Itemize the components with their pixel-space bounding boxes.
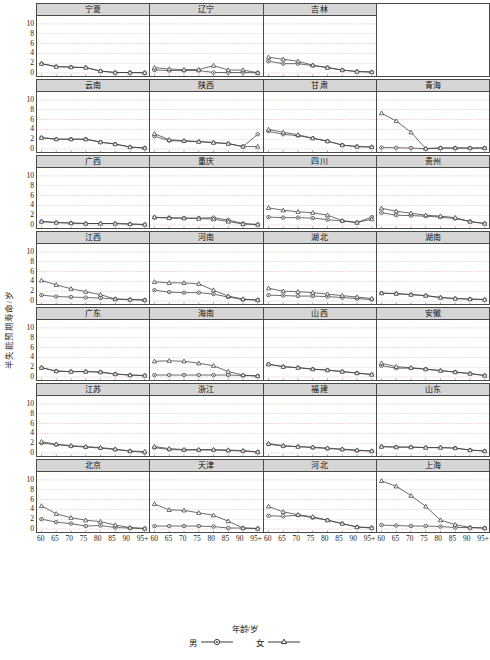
panel-河南: 河南 bbox=[150, 232, 263, 304]
panel-上海: 上海 bbox=[377, 460, 489, 532]
y-axis-tick-column: 0246810 bbox=[18, 79, 36, 153]
x-axis-tick-group: 6065707580859095+ bbox=[150, 533, 264, 545]
panel-title: 重庆 bbox=[150, 156, 262, 168]
y-axis-tick-label: 0 bbox=[30, 297, 34, 305]
panel-title: 广西 bbox=[37, 156, 149, 168]
panel-湖南: 湖南 bbox=[377, 232, 489, 304]
panel-重庆: 重庆 bbox=[150, 156, 263, 228]
y-axis-tick-column: 0246810 bbox=[18, 231, 36, 305]
panel-plot-area bbox=[264, 396, 376, 456]
x-axis-tick-label: 95+ bbox=[364, 533, 376, 545]
y-axis-title: 半失能预期寿命/岁 bbox=[0, 0, 17, 660]
y-axis-tick-label: 0 bbox=[30, 221, 34, 229]
x-axis-tick-label: 60 bbox=[151, 533, 158, 545]
y-axis-tick-label: 2 bbox=[30, 287, 34, 295]
x-axis-tick-label: 80 bbox=[94, 533, 101, 545]
panel-title: 安徽 bbox=[377, 308, 489, 320]
y-axis-tick-label: 2 bbox=[30, 135, 34, 143]
panel-湖北: 湖北 bbox=[264, 232, 377, 304]
panel-row: 0246810宁夏辽宁吉林 bbox=[18, 3, 490, 77]
x-axis-tick-label: 65 bbox=[51, 533, 58, 545]
y-axis-tick-label: 8 bbox=[30, 486, 34, 494]
y-axis-tick-label: 10 bbox=[26, 400, 34, 408]
panel-title: 上海 bbox=[377, 460, 489, 472]
panel-title: 辽宁 bbox=[150, 4, 262, 16]
panel-陕西: 陕西 bbox=[150, 80, 263, 152]
panel-江西: 江西 bbox=[37, 232, 150, 304]
panel-山西: 山西 bbox=[264, 308, 377, 380]
legend: 男 女 bbox=[0, 636, 490, 648]
panel-plot-area bbox=[150, 472, 262, 532]
x-axis-title: 年龄/岁 bbox=[0, 622, 490, 634]
panel-group: 北京天津河北上海 bbox=[36, 459, 490, 533]
y-axis-tick-label: 10 bbox=[26, 248, 34, 256]
panel-row: 0246810北京天津河北上海 bbox=[18, 459, 490, 533]
panel-title: 陕西 bbox=[150, 80, 262, 92]
y-axis-tick-label: 8 bbox=[30, 30, 34, 38]
y-axis-tick-column: 0246810 bbox=[18, 459, 36, 533]
x-axis-tick-label: 95+ bbox=[137, 533, 149, 545]
panel-title: 江西 bbox=[37, 232, 149, 244]
panel-plot-area bbox=[37, 244, 149, 304]
x-axis-tick-group: 6065707580859095+ bbox=[36, 533, 150, 545]
panel-plot-area bbox=[377, 244, 489, 304]
legend-label-female: 女 bbox=[256, 636, 264, 648]
x-axis-tick-label: 70 bbox=[293, 533, 300, 545]
panel-rows-container: 0246810宁夏辽宁吉林0246810云南陕西甘肃青海0246810广西重庆四… bbox=[18, 3, 490, 535]
panel-plot-area bbox=[37, 320, 149, 380]
panel-title: 海南 bbox=[150, 308, 262, 320]
panel-plot-area bbox=[37, 472, 149, 532]
legend-label-male: 男 bbox=[189, 636, 197, 648]
panel-row: 0246810江西河南湖北湖南 bbox=[18, 231, 490, 305]
y-axis-tick-label: 10 bbox=[26, 172, 34, 180]
y-axis-tick-label: 0 bbox=[30, 145, 34, 153]
y-axis-tick-column: 0246810 bbox=[18, 3, 36, 77]
y-axis-tick-label: 4 bbox=[30, 354, 34, 362]
panel-title: 江苏 bbox=[37, 384, 149, 396]
x-axis-tick-label: 85 bbox=[449, 533, 456, 545]
y-axis-tick-label: 6 bbox=[30, 192, 34, 200]
panel-group: 云南陕西甘肃青海 bbox=[36, 79, 490, 153]
y-axis-tick-label: 10 bbox=[26, 324, 34, 332]
panel-title: 宁夏 bbox=[37, 4, 149, 16]
panel-title: 四川 bbox=[264, 156, 376, 168]
x-axis-tick-label: 65 bbox=[392, 533, 399, 545]
panel-plot-area bbox=[377, 168, 489, 228]
legend-marker-circle-icon bbox=[200, 637, 234, 647]
x-axis-tick-label: 90 bbox=[463, 533, 470, 545]
y-axis-tick-column: 0246810 bbox=[18, 383, 36, 457]
x-axis-tick-label: 70 bbox=[179, 533, 186, 545]
y-axis-tick-label: 6 bbox=[30, 116, 34, 124]
panel-plot-area bbox=[377, 320, 489, 380]
panel-plot-area bbox=[264, 92, 376, 152]
panel-title: 湖南 bbox=[377, 232, 489, 244]
y-axis-tick-label: 8 bbox=[30, 334, 34, 342]
panel-title: 广东 bbox=[37, 308, 149, 320]
panel-宁夏: 宁夏 bbox=[37, 4, 150, 76]
panel-江苏: 江苏 bbox=[37, 384, 150, 456]
y-axis-tick-label: 10 bbox=[26, 20, 34, 28]
panel-plot-area bbox=[150, 396, 262, 456]
legend-item-male: 男 bbox=[189, 636, 234, 648]
panel-row: 0246810广西重庆四川贵州 bbox=[18, 155, 490, 229]
panel-河北: 河北 bbox=[264, 460, 377, 532]
x-axis-tick-label: 80 bbox=[435, 533, 442, 545]
y-axis-tick-label: 2 bbox=[30, 515, 34, 523]
x-axis-tick-label: 70 bbox=[66, 533, 73, 545]
panel-青海: 青海 bbox=[377, 80, 489, 152]
panel-plot-area bbox=[264, 320, 376, 380]
y-axis-tick-column: 0246810 bbox=[18, 307, 36, 381]
panel-plot-area bbox=[264, 16, 376, 76]
x-axis-tick-label: 85 bbox=[108, 533, 115, 545]
panel-广东: 广东 bbox=[37, 308, 150, 380]
panel-row: 0246810云南陕西甘肃青海 bbox=[18, 79, 490, 153]
panel-plot-area bbox=[377, 92, 489, 152]
panel-title: 浙江 bbox=[150, 384, 262, 396]
panel-title: 云南 bbox=[37, 80, 149, 92]
panel-plot-area bbox=[264, 244, 376, 304]
y-axis-tick-label: 0 bbox=[30, 525, 34, 533]
x-axis-tick-group: 6065707580859095+ bbox=[377, 533, 490, 545]
panel-plot-area bbox=[150, 244, 262, 304]
y-axis-tick-label: 2 bbox=[30, 439, 34, 447]
panel-安徽: 安徽 bbox=[377, 308, 489, 380]
